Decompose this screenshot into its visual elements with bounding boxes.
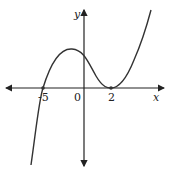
y-axis-label: y [73, 8, 81, 21]
x-axis-label: x [153, 91, 160, 104]
tick-label-2: 2 [108, 91, 115, 104]
root-point [41, 86, 45, 90]
cubic-graph: y x -5 0 2 [0, 0, 170, 179]
tick-label-0: 0 [74, 91, 81, 104]
root-point [109, 86, 113, 90]
tick-label-neg5: -5 [38, 91, 49, 104]
